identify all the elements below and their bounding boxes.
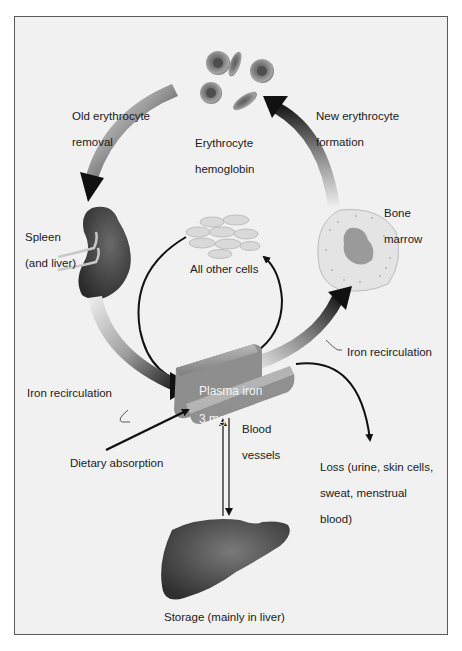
label-iron-recirculation-left: Iron recirculation — [27, 387, 112, 400]
label-line: (and liver) — [25, 257, 76, 269]
label-iron-recirculation-right: Iron recirculation — [347, 346, 432, 359]
label-line: formation — [316, 136, 364, 148]
label-line: 3 mg — [199, 412, 226, 426]
label-erythrocyte-hemoglobin: Erythrocyte hemoglobin — [195, 124, 254, 176]
label-bone-marrow: Bone marrow — [384, 194, 422, 246]
label-line: sweat, menstrual — [320, 487, 407, 499]
liver-illustration — [161, 519, 290, 599]
label-line: New erythrocyte — [316, 110, 399, 122]
label-blood-vessels: Blood vessels — [242, 410, 280, 462]
label-line: vessels — [242, 449, 280, 461]
label-loss: Loss (urine, skin cells, sweat, menstrua… — [320, 448, 433, 526]
iron-recirc-left-arrow — [88, 296, 180, 392]
label-old-erythrocyte-removal: Old erythrocyte removal — [72, 97, 150, 149]
label-line: blood) — [320, 513, 352, 525]
loss-arrow — [296, 363, 370, 440]
iron-recirc-right-arrow — [250, 296, 344, 370]
label-line: Bone — [384, 207, 411, 219]
label-spleen: Spleen (and liver) — [25, 218, 76, 270]
label-line: marrow — [384, 233, 422, 245]
label-line: Plasma iron — [199, 384, 262, 398]
label-line: Spleen — [25, 231, 61, 243]
label-line: Blood — [242, 423, 271, 435]
label-dietary-absorption: Dietary absorption — [70, 457, 163, 470]
label-line: removal — [72, 136, 113, 148]
label-all-other-cells: All other cells — [190, 263, 258, 276]
erythrocyte-cluster — [200, 50, 274, 113]
dietary-arrow — [106, 410, 188, 450]
label-line: Loss (urine, skin cells, — [320, 461, 433, 473]
label-line: hemoglobin — [195, 163, 254, 175]
label-new-erythrocyte-formation: New erythrocyte formation — [316, 97, 399, 149]
label-line: Erythrocyte — [195, 137, 253, 149]
label-storage: Storage (mainly in liver) — [164, 611, 285, 624]
label-line: Old erythrocyte — [72, 110, 150, 122]
storage-exchange-arrows — [223, 418, 229, 516]
other-cells-illustration — [186, 215, 260, 259]
